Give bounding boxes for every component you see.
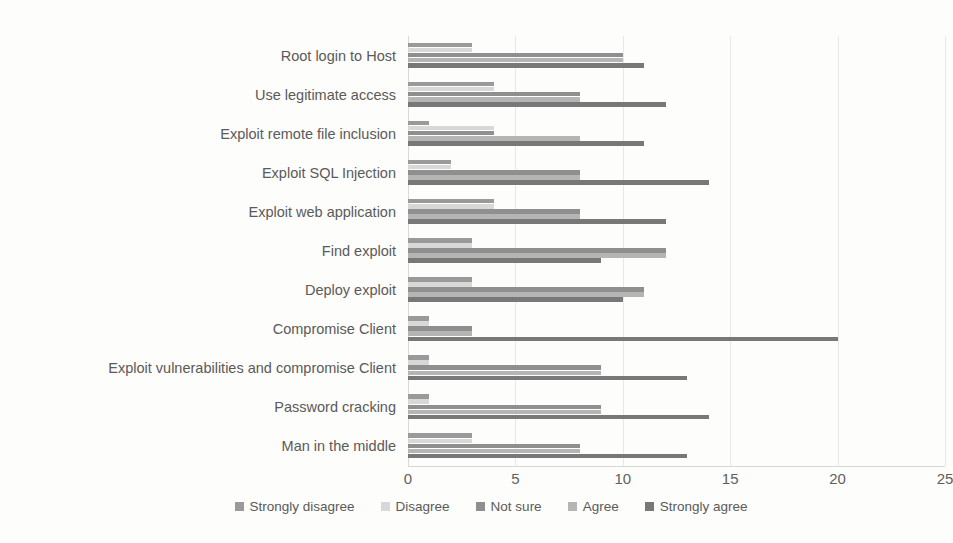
category-label: Compromise Client [273,321,396,337]
bar-segment [408,199,494,204]
legend-label: Strongly disagree [250,499,355,514]
legend-item[interactable]: Strongly disagree [235,499,355,514]
bar-segment [408,326,472,331]
bar-segment [408,433,472,438]
category-label: Use legitimate access [255,87,396,103]
legend-swatch-icon [568,502,577,511]
bar-group [408,121,945,147]
category-row: Find exploit [408,231,945,270]
bar-segment [408,360,429,365]
legend-label: Not sure [491,499,542,514]
x-tick-label: 15 [722,470,739,487]
bar-segment [408,131,494,136]
bar-group [408,43,945,69]
bar-segment [408,248,666,253]
bar-segment [408,253,666,258]
category-label: Man in the middle [282,438,396,454]
bar-segment [408,58,623,63]
legend-item[interactable]: Strongly agree [645,499,748,514]
bar-segment [408,321,429,326]
bar-group [408,394,945,420]
bar-segment [408,439,472,444]
bar-group [408,199,945,225]
x-axis-line [408,466,945,467]
bar-segment [408,48,472,53]
legend-label: Strongly agree [660,499,748,514]
bar-segment [408,258,601,263]
bar-group [408,82,945,108]
category-row: Exploit vulnerabilities and compromise C… [408,349,945,388]
bar-group [408,160,945,186]
bar-segment [408,102,666,107]
bar-segment [408,63,644,68]
category-row: Exploit SQL Injection [408,153,945,192]
legend-swatch-icon [381,502,390,511]
x-tick-label: 10 [614,470,631,487]
bar-segment [408,365,601,370]
bar-segment [408,136,580,141]
legend-item[interactable]: Disagree [381,499,450,514]
plot-area: Root login to HostUse legitimate accessE… [408,36,945,466]
bar-segment [408,399,429,404]
bar-segment [408,43,472,48]
legend-swatch-icon [645,502,654,511]
gridline-25 [945,36,946,466]
bar-segment [408,292,644,297]
bar-segment [408,316,429,321]
bar-segment [408,209,580,214]
bar-segment [408,394,429,399]
bar-segment [408,444,580,449]
bar-segment [408,92,580,97]
category-label: Exploit SQL Injection [262,165,396,181]
category-label: Root login to Host [281,48,396,64]
bar-segment [408,449,580,454]
bar-segment [408,297,623,302]
bar-segment [408,238,472,243]
category-row: Compromise Client [408,310,945,349]
x-tick-label: 20 [829,470,846,487]
bar-segment [408,175,580,180]
x-tick-label: 25 [937,470,953,487]
legend-swatch-icon [476,502,485,511]
category-row: Deploy exploit [408,271,945,310]
legend-label: Disagree [396,499,450,514]
bar-segment [408,219,666,224]
bar-segment [408,141,644,146]
bar-segment [408,126,494,131]
category-label: Deploy exploit [305,282,396,298]
bar-segment [408,287,644,292]
bar-group [408,355,945,381]
bar-segment [408,97,580,102]
bar-group [408,433,945,459]
bar-segment [408,277,472,282]
category-row: Root login to Host [408,36,945,75]
category-label: Exploit vulnerabilities and compromise C… [108,360,396,376]
bar-segment [408,371,601,376]
bar-segment [408,331,472,336]
legend-item[interactable]: Not sure [476,499,542,514]
bar-segment [408,180,709,185]
bar-segment [408,355,429,360]
category-label: Exploit web application [248,204,396,220]
bar-segment [408,243,472,248]
bar-segment [408,214,580,219]
bar-group [408,238,945,264]
bar-segment [408,282,472,287]
bar-segment [408,87,494,92]
bar-segment [408,160,451,165]
bar-group [408,316,945,342]
bar-segment [408,454,687,459]
legend-label: Agree [583,499,619,514]
bar-segment [408,165,451,170]
legend-item[interactable]: Agree [568,499,619,514]
bar-segment [408,405,601,410]
bar-segment [408,415,709,420]
bar-segment [408,204,494,209]
bar-segment [408,410,601,415]
chart-legend: Strongly disagreeDisagreeNot sureAgreeSt… [0,499,952,514]
category-row: Password cracking [408,388,945,427]
x-tick-label: 5 [511,470,519,487]
bar-segment [408,53,623,58]
bar-segment [408,82,494,87]
